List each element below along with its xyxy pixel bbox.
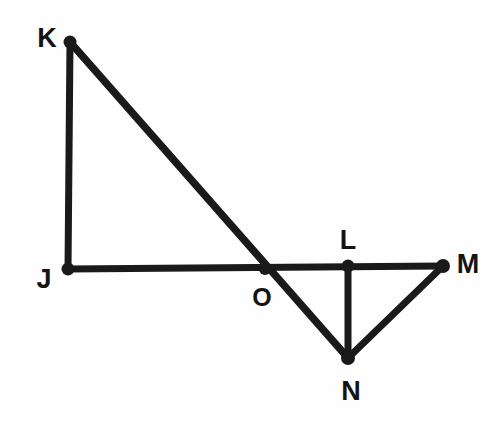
- geometry-figure: K J O L M N: [0, 0, 500, 425]
- vertex-label-M: M: [457, 251, 480, 278]
- geometry-canvas: [0, 0, 500, 425]
- vertex-label-N: N: [341, 378, 361, 405]
- segment-NM: [348, 266, 443, 358]
- vertex-label-L: L: [340, 227, 357, 254]
- vertex-dot-O: [259, 263, 271, 275]
- vertex-dot-K: [64, 36, 77, 49]
- vertex-label-J: J: [36, 266, 51, 293]
- vertex-label-O: O: [252, 285, 271, 310]
- segment-group: [68, 42, 443, 358]
- segment-KN: [70, 42, 348, 358]
- vertex-label-K: K: [37, 25, 57, 52]
- vertex-dot-M: [436, 259, 450, 273]
- segment-KJ: [68, 42, 70, 269]
- segment-JM: [68, 266, 443, 269]
- vertex-dot-L: [342, 260, 355, 273]
- vertex-dot-J: [62, 263, 75, 276]
- vertex-dot-N: [341, 351, 355, 365]
